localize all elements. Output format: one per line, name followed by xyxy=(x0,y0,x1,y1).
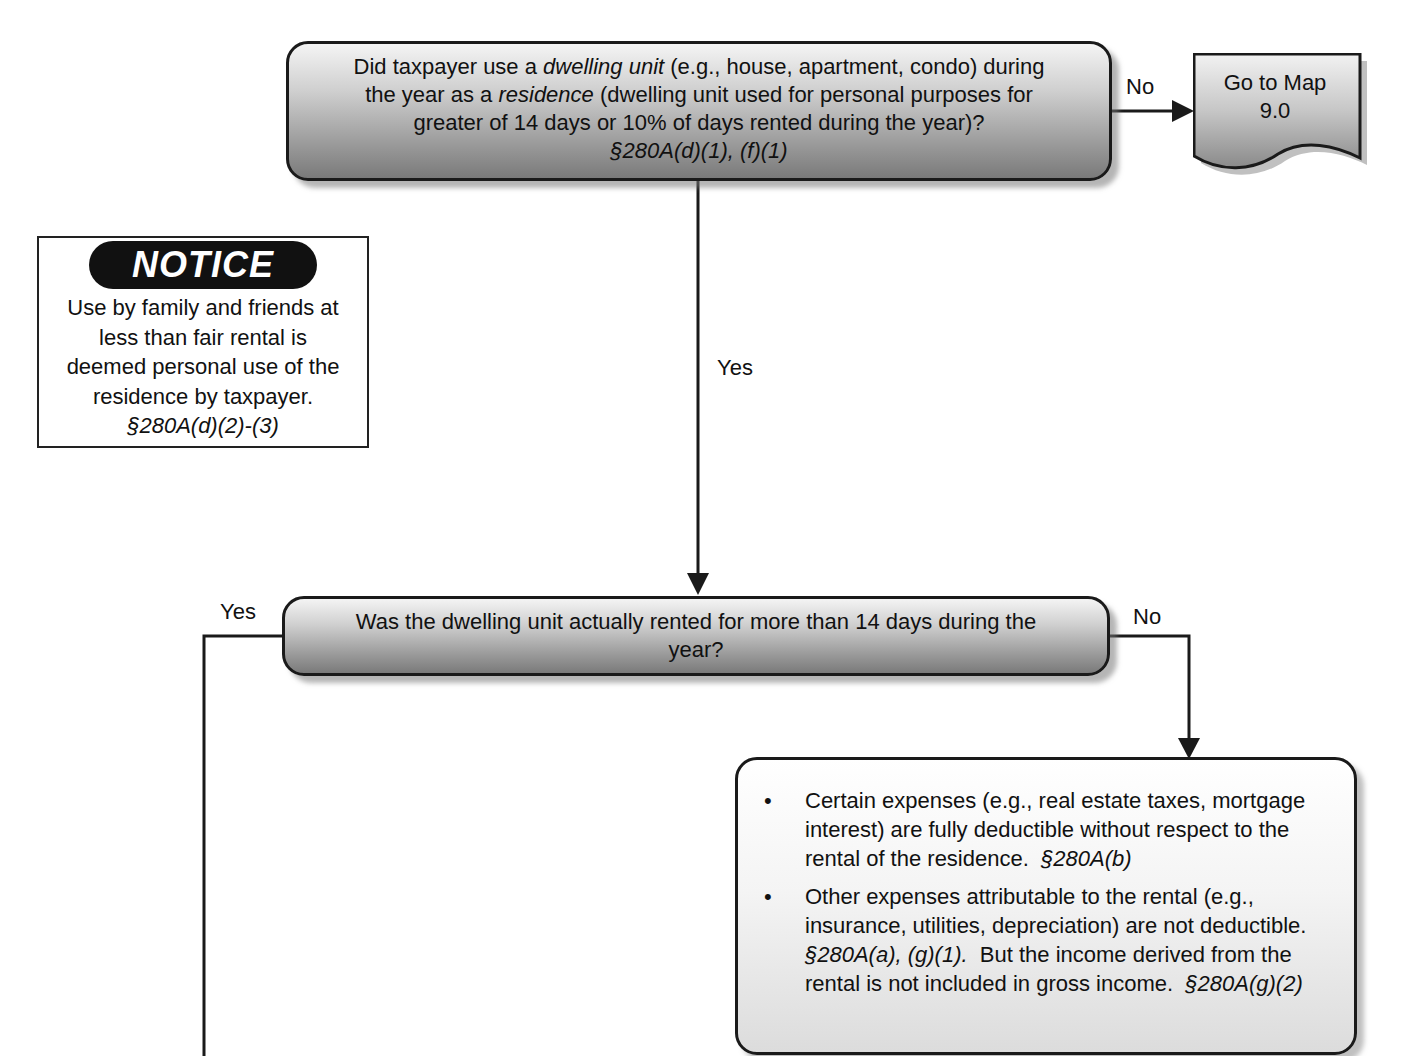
arrowhead-down-icon xyxy=(687,573,709,595)
bullet-icon: • xyxy=(764,882,772,911)
connector-yes-continue xyxy=(204,636,284,1056)
citation: §280A(a), (g)(1). xyxy=(805,942,968,967)
notice-title: NOTICE xyxy=(89,241,317,289)
question-citation: §280A(d)(1), (f)(1) xyxy=(289,137,1109,165)
question-line-1: Was the dwelling unit actually rented fo… xyxy=(285,608,1107,636)
branch-label-no: No xyxy=(1133,604,1161,630)
notice-citation: §280A(d)(2)-(3) xyxy=(39,411,367,441)
notice-body: Use by family and friends at less than f… xyxy=(39,293,367,441)
connector-no-result xyxy=(1110,636,1189,740)
branch-label-yes: Yes xyxy=(220,599,256,625)
decision-rented-14-days: Was the dwelling unit actually rented fo… xyxy=(282,596,1110,676)
result-item-deductible: • Certain expenses (e.g., real estate ta… xyxy=(760,786,1336,873)
question-line-1: Did taxpayer use a dwelling unit (e.g., … xyxy=(289,53,1109,81)
result-item-not-deductible: • Other expenses attributable to the ren… xyxy=(760,882,1336,998)
result-not-rented-14-days: • Certain expenses (e.g., real estate ta… xyxy=(735,757,1357,1055)
arrowhead-down-icon xyxy=(1178,738,1200,759)
notice-box: NOTICE Use by family and friends at less… xyxy=(37,236,369,448)
citation: §280A(g)(2) xyxy=(1185,971,1302,996)
citation: §280A(b) xyxy=(1041,846,1132,871)
question-line-2: the year as a residence (dwelling unit u… xyxy=(289,81,1109,109)
branch-label-no: No xyxy=(1126,74,1154,100)
decision-dwelling-residence: Did taxpayer use a dwelling unit (e.g., … xyxy=(286,41,1112,181)
offpage-label: Go to Map 9.0 xyxy=(1193,69,1357,125)
offpage-reference-map-9: Go to Map 9.0 xyxy=(1193,53,1361,193)
result-list: • Certain expenses (e.g., real estate ta… xyxy=(760,786,1336,998)
question-line-2: year? xyxy=(285,636,1107,664)
branch-label-yes: Yes xyxy=(717,355,753,381)
arrowhead-right-icon xyxy=(1172,100,1194,122)
question-line-3: greater of 14 days or 10% of days rented… xyxy=(289,109,1109,137)
bullet-icon: • xyxy=(764,786,772,815)
